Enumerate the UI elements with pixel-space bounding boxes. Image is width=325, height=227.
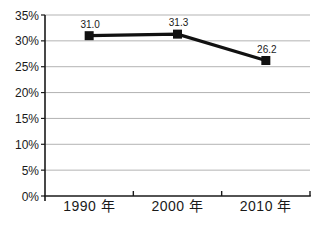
data-point-marker — [85, 31, 94, 40]
x-axis-label: 2010 年 — [240, 198, 292, 214]
y-axis-label: 35% — [15, 9, 39, 23]
data-label: 26.2 — [257, 44, 277, 55]
y-axis-label: 30% — [15, 34, 39, 48]
y-axis-label: 5% — [22, 164, 40, 178]
data-label: 31.3 — [169, 17, 189, 28]
y-axis-label: 25% — [15, 60, 39, 74]
data-point-marker — [173, 30, 182, 39]
y-axis-label: 0% — [22, 190, 40, 204]
line-chart: 0%5%10%15%20%25%30%35%1990 年2000 年2010 年… — [0, 0, 325, 227]
chart-canvas: 0%5%10%15%20%25%30%35%1990 年2000 年2010 年… — [0, 0, 325, 227]
y-axis-label: 10% — [15, 138, 39, 152]
data-point-marker — [261, 56, 270, 65]
x-axis-label: 1990 年 — [63, 198, 115, 214]
x-axis-label: 2000 年 — [151, 198, 203, 214]
y-axis-label: 20% — [15, 86, 39, 100]
data-label: 31.0 — [80, 19, 100, 30]
y-axis-label: 15% — [15, 112, 39, 126]
